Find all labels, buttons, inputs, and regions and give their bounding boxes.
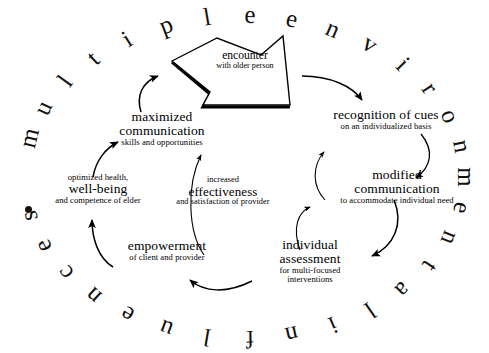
node-empowerment: empowerment of client and provider xyxy=(106,239,228,262)
node-modified-title-line1: modified xyxy=(312,168,482,182)
diagram-canvas: multipleenvironmentalinfluences xyxy=(0,0,489,353)
node-modified-title-line2: communication xyxy=(312,182,482,196)
node-effectiveness: increased effectiveness and satisfaction… xyxy=(158,176,288,207)
node-effectiveness-title: effectiveness xyxy=(158,185,288,199)
node-recognition-subtitle: on an individualized basis xyxy=(296,122,476,131)
node-maximized-title-line2: communication xyxy=(99,124,225,138)
node-wellbeing-title: well-being xyxy=(34,182,162,196)
node-encounter: encounter with older person xyxy=(190,50,300,71)
node-empowerment-subtitle: of client and provider xyxy=(106,253,228,262)
node-recognition-title: recognition of cues xyxy=(296,108,476,122)
node-maximized-communication: maximized communication skills and oppor… xyxy=(99,110,225,147)
node-modified-subtitle: to accommodate individual need xyxy=(312,196,482,205)
node-assessment-title-line1: individual xyxy=(248,238,372,252)
node-assessment-title-line2: assessment xyxy=(248,252,372,266)
node-encounter-subtitle: with older person xyxy=(190,62,300,71)
node-individual-assessment: individual assessment for multi-focused … xyxy=(248,238,372,284)
node-wellbeing-subtitle: and competence of elder xyxy=(34,196,162,205)
node-assessment-subtitle-line2: interventions xyxy=(248,275,372,284)
node-modified-communication: modified communication to accommodate in… xyxy=(312,168,482,205)
node-effectiveness-subtitle: and satisfaction of provider xyxy=(158,198,288,207)
node-wellbeing: optimized health, well-being and compete… xyxy=(34,173,162,205)
node-recognition-of-cues: recognition of cues on an individualized… xyxy=(296,108,476,131)
node-maximized-title-line1: maximized xyxy=(99,110,225,124)
node-empowerment-title: empowerment xyxy=(106,239,228,253)
node-maximized-subtitle: skills and opportunities xyxy=(99,138,225,147)
